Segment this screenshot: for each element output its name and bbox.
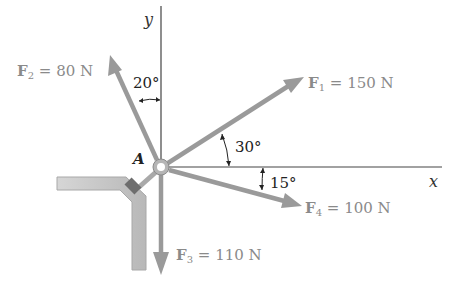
- f1-label: F1 = 150 N: [308, 76, 394, 93]
- point-a-label: A: [133, 152, 145, 167]
- x-axis-label: x: [429, 174, 438, 190]
- angle-15-label: 15°: [270, 176, 297, 191]
- f4-label: F4 = 100 N: [305, 201, 391, 218]
- f4-value: 100 N: [344, 199, 391, 217]
- y-axis-label: y: [144, 12, 153, 28]
- f1-value: 150 N: [347, 74, 394, 92]
- angle-20-label: 20°: [133, 76, 160, 91]
- f3-symbol: F: [176, 246, 187, 264]
- f2-arrow: [108, 55, 157, 160]
- f2-equals: =: [34, 62, 56, 80]
- hub-ring: [153, 159, 169, 175]
- f3-arrow: [153, 175, 169, 275]
- f4-equals: =: [322, 199, 344, 217]
- diagram-svg: [0, 0, 451, 287]
- f4-symbol: F: [305, 199, 316, 217]
- f1-symbol: F: [308, 74, 319, 92]
- f1-equals: =: [325, 74, 347, 92]
- f2-symbol: F: [17, 62, 28, 80]
- f2-label: F2 = 80 N: [17, 64, 93, 81]
- angle-30-label: 30°: [235, 140, 262, 155]
- f2-value: 80 N: [56, 62, 93, 80]
- f3-value: 110 N: [215, 246, 262, 264]
- f3-equals: =: [193, 246, 215, 264]
- f3-label: F3 = 110 N: [176, 248, 262, 265]
- force-diagram: y x A 20° 30° 15° F1 = 150 N F2 = 80 N F…: [0, 0, 451, 287]
